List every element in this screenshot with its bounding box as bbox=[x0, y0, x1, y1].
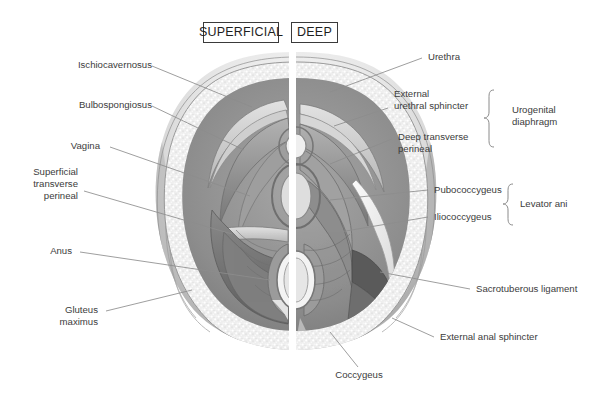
label-anus: Anus bbox=[20, 245, 72, 257]
anatomy-figure: SUPERFICIAL DEEP Ischiocavernosus Bulbos… bbox=[0, 0, 597, 397]
label-sacrotuberous-ligament: Sacrotuberous ligament bbox=[476, 283, 596, 295]
label-urogenital-diaphragm: Urogenital diaphragm bbox=[512, 104, 592, 128]
label-coccygeus: Coccygeus bbox=[324, 369, 394, 381]
label-superficial-transverse-perineal: Superficial transverse perineal bbox=[4, 166, 78, 203]
label-external-anal-sphincter: External anal sphincter bbox=[440, 331, 560, 343]
midline-divider bbox=[289, 48, 296, 354]
label-gluteus-maximus: Gluteus maximus bbox=[26, 304, 98, 328]
label-vagina: Vagina bbox=[20, 140, 100, 152]
label-ischiocavernosus: Ischiocavernosus bbox=[20, 59, 152, 71]
label-bulbospongiosus: Bulbospongiosus bbox=[10, 99, 152, 111]
header-deep: DEEP bbox=[291, 22, 338, 43]
header-superficial: SUPERFICIAL bbox=[203, 22, 279, 43]
label-levator-ani: Levator ani bbox=[520, 198, 590, 210]
label-deep-transverse-perineal: Deep transverse perineal bbox=[398, 131, 494, 155]
label-urethra: Urethra bbox=[428, 51, 518, 63]
label-iliococcygeus: Iliococcygeus bbox=[434, 211, 514, 223]
label-external-urethral-sphincter: External urethral sphincter bbox=[394, 88, 490, 112]
label-pubococcygeus: Pubococcygeus bbox=[434, 184, 514, 196]
